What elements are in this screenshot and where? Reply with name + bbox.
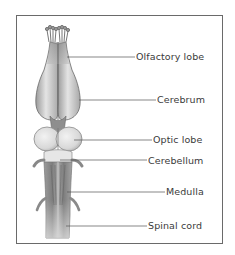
label-cerebrum: Cerebrum [157,94,205,105]
label-medulla: Medulla [166,186,204,197]
label-cerebellum: Cerebellum [148,155,203,166]
spinal-nerve-right [70,198,79,210]
right-optic-lobe [56,127,82,151]
cranial-nerve-right [72,160,82,166]
olfactory-nerves [45,25,69,42]
frog-brain-illustration [0,0,235,255]
cranial-nerve-left [34,160,44,166]
label-optic-lobe: Optic lobe [153,134,202,145]
spinal-nerve-left [37,198,46,210]
label-olfactory-lobe: Olfactory lobe [136,51,204,62]
label-spinal-cord: Spinal cord [148,220,202,231]
cerebellum [44,150,72,164]
